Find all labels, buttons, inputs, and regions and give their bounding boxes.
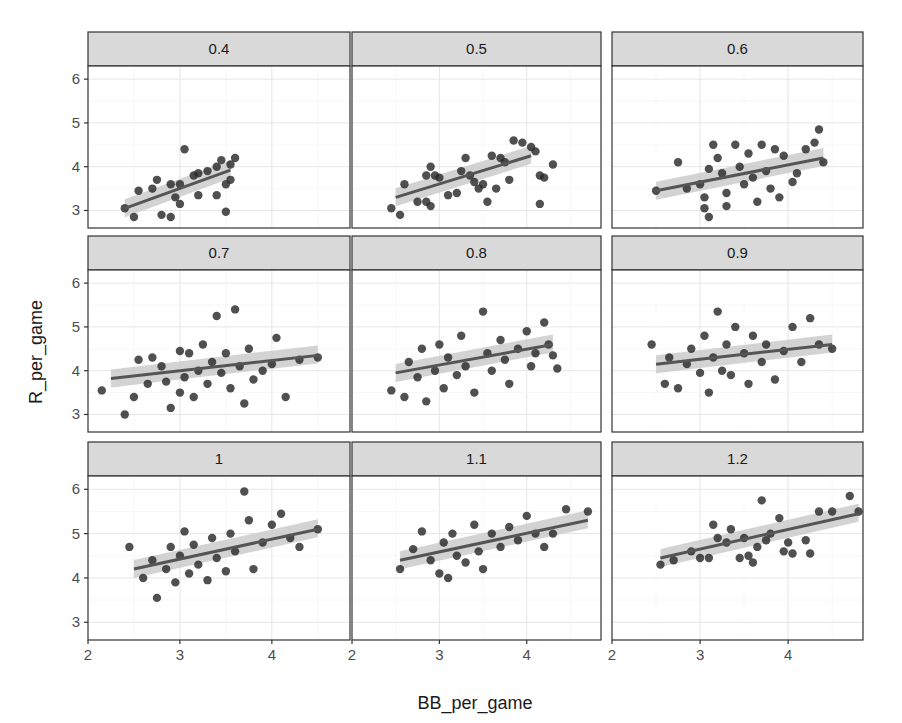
data-point <box>422 397 430 405</box>
data-point <box>744 149 752 157</box>
facet-panel: 1 <box>88 442 350 640</box>
data-point <box>409 545 417 553</box>
data-point <box>400 393 408 401</box>
data-point <box>479 180 487 188</box>
data-point <box>98 386 106 394</box>
data-point <box>130 393 138 401</box>
data-point <box>121 410 129 418</box>
data-point <box>669 556 677 564</box>
data-point <box>444 353 452 361</box>
y-tick-label: 4 <box>72 158 80 175</box>
data-point <box>674 384 682 392</box>
data-point <box>435 340 443 348</box>
data-point <box>461 362 469 370</box>
data-point <box>488 152 496 160</box>
data-point <box>194 169 202 177</box>
facet-strip-label: 0.6 <box>727 40 748 57</box>
data-point <box>722 202 730 210</box>
facet-panel: 0.5 <box>352 32 601 228</box>
data-point <box>194 191 202 199</box>
data-point <box>540 318 548 326</box>
data-point <box>549 351 557 359</box>
facet-panel: 1.1 <box>352 442 601 640</box>
data-point <box>828 507 836 515</box>
data-point <box>180 527 188 535</box>
facet-strip-label: 1.1 <box>466 450 487 467</box>
y-tick-label: 5 <box>72 114 80 131</box>
data-point <box>148 353 156 361</box>
data-point <box>709 141 717 149</box>
facet-strip-label: 0.7 <box>209 244 230 261</box>
data-point <box>208 534 216 542</box>
data-point <box>203 380 211 388</box>
data-point <box>396 211 404 219</box>
data-point <box>780 152 788 160</box>
data-point <box>540 173 548 181</box>
data-point <box>435 173 443 181</box>
data-point <box>444 191 452 199</box>
data-point <box>167 213 175 221</box>
data-point <box>396 565 404 573</box>
data-point <box>157 362 165 370</box>
data-point <box>709 521 717 529</box>
data-point <box>802 536 810 544</box>
plot-area <box>352 476 601 640</box>
data-point <box>470 388 478 396</box>
facet-panel: 1.2 <box>612 442 863 640</box>
data-point <box>713 534 721 542</box>
y-tick-label: 6 <box>72 480 80 497</box>
data-point <box>461 558 469 566</box>
y-tick-label: 3 <box>72 405 80 422</box>
facet-panel: 0.8 <box>352 236 601 432</box>
data-point <box>479 307 487 315</box>
data-point <box>194 560 202 568</box>
data-point <box>222 567 230 575</box>
data-point <box>705 554 713 562</box>
data-point <box>213 312 221 320</box>
data-point <box>418 527 426 535</box>
data-point <box>422 171 430 179</box>
data-point <box>180 145 188 153</box>
data-point <box>167 543 175 551</box>
data-point <box>771 145 779 153</box>
data-point <box>295 543 303 551</box>
data-point <box>226 160 234 168</box>
data-point <box>453 189 461 197</box>
data-point <box>171 578 179 586</box>
data-point <box>661 380 669 388</box>
data-point <box>505 176 513 184</box>
data-point <box>780 547 788 555</box>
data-point <box>222 208 230 216</box>
data-point <box>749 558 757 566</box>
y-tick-label: 5 <box>72 525 80 542</box>
data-point <box>718 367 726 375</box>
data-point <box>753 198 761 206</box>
data-point <box>139 574 147 582</box>
data-point <box>523 327 531 335</box>
data-point <box>148 184 156 192</box>
data-point <box>665 353 673 361</box>
data-point <box>400 180 408 188</box>
data-point <box>470 521 478 529</box>
data-point <box>176 388 184 396</box>
data-point <box>775 193 783 201</box>
faceted-scatter-chart: 0.40.50.60.70.80.911.11.2 345634563456 2… <box>0 0 902 723</box>
data-point <box>736 163 744 171</box>
data-point <box>213 554 221 562</box>
data-point <box>753 543 761 551</box>
data-point <box>793 169 801 177</box>
y-axes: 345634563456 <box>72 70 88 630</box>
data-point <box>457 331 465 339</box>
data-point <box>647 340 655 348</box>
data-point <box>268 521 276 529</box>
data-point <box>258 367 266 375</box>
data-point <box>762 340 770 348</box>
data-point <box>488 367 496 375</box>
data-point <box>444 574 452 582</box>
x-axis-title: BB_per_game <box>417 693 532 714</box>
data-point <box>788 178 796 186</box>
data-point <box>440 384 448 392</box>
data-point <box>180 373 188 381</box>
x-tick-label: 3 <box>176 646 184 663</box>
data-point <box>674 158 682 166</box>
